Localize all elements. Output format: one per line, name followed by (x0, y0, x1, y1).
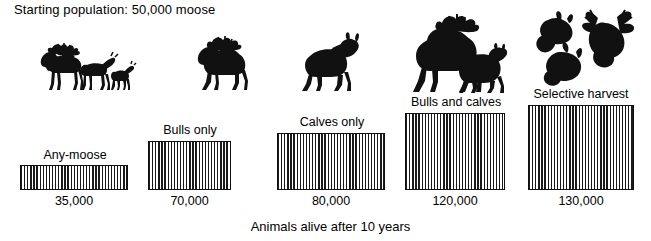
group-label-calves-only: Calves only (292, 115, 372, 129)
bar-value-selective-harvest: 130,000 (528, 194, 634, 208)
bar-value-calves-only: 80,000 (277, 194, 385, 208)
page-title: Starting population: 50,000 moose (14, 2, 215, 17)
axis-caption: Animals alive after 10 years (0, 219, 651, 234)
bar-selective-harvest (528, 105, 634, 190)
moose-harvest-chart: Starting population: 50,000 moose (0, 0, 651, 241)
moose-bull-silhouette (172, 36, 252, 92)
bar-any-moose (20, 165, 128, 190)
moose-bull-cow-calf-silhouette (18, 42, 138, 92)
bar-value-any-moose: 35,000 (20, 194, 128, 208)
bar-calves-only (277, 133, 385, 190)
group-label-any-moose: Any-moose (35, 148, 115, 162)
bar-bulls-and-calves (405, 113, 505, 190)
axis-caption-text: Animals alive after 10 years (251, 219, 411, 234)
moose-heads-silhouette (524, 4, 642, 88)
moose-bull-and-calf-silhouette (402, 14, 514, 94)
group-label-bulls-and-calves: Bulls and calves (411, 95, 501, 109)
group-label-selective-harvest: Selective harvest (531, 87, 631, 101)
bar-value-bulls-and-calves: 120,000 (405, 194, 505, 208)
moose-calf-silhouette (294, 30, 372, 92)
bar-bulls-only (148, 141, 231, 190)
bar-value-bulls-only: 70,000 (148, 194, 231, 208)
group-label-bulls-only: Bulls only (155, 123, 225, 137)
